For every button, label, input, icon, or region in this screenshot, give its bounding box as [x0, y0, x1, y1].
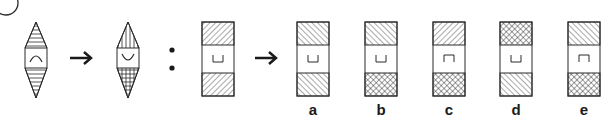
analogy-separator-colon — [169, 47, 174, 70]
option-b-figure[interactable] — [365, 22, 397, 96]
option-a-label[interactable]: a — [303, 101, 323, 118]
option-a-figure[interactable] — [297, 22, 329, 96]
option-d-label[interactable]: d — [506, 101, 526, 118]
option-c-label[interactable]: c — [439, 101, 459, 118]
option-e-figure[interactable] — [568, 22, 600, 96]
analogy-target-figure — [117, 22, 139, 98]
arrow-right-icon — [70, 52, 91, 64]
arrow-right-icon — [255, 52, 276, 64]
option-e-label[interactable]: e — [574, 101, 594, 118]
option-c-figure[interactable] — [433, 22, 465, 96]
option-b-label[interactable]: b — [371, 101, 391, 118]
analogy-given-figure — [202, 22, 234, 96]
option-d-figure[interactable] — [500, 22, 532, 96]
question-number-badge — [0, 0, 18, 15]
analogy-source-figure — [25, 22, 47, 98]
